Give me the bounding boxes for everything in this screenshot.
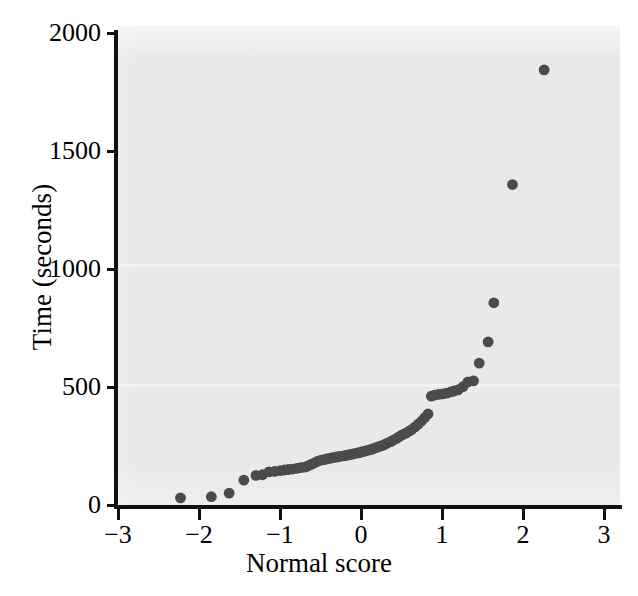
x-axis-title: Normal score	[0, 548, 638, 578]
data-point	[488, 297, 499, 308]
x-tick-minus2	[198, 508, 201, 520]
data-point	[468, 375, 479, 386]
x-tick-minus3	[117, 508, 120, 520]
y-tick-1500	[107, 150, 118, 153]
x-tick-label-minus3: −3	[78, 522, 158, 548]
y-tick-label-2000: 2000	[0, 20, 101, 46]
data-point	[423, 409, 434, 420]
x-tick-label-3: 3	[564, 522, 638, 548]
data-point	[507, 179, 518, 190]
data-point	[539, 64, 550, 75]
x-tick-minus1	[279, 508, 282, 520]
y-tick-500	[107, 386, 118, 389]
x-tick-0	[360, 508, 363, 520]
y-axis-title: Time (seconds)	[27, 117, 57, 417]
data-point	[224, 488, 235, 499]
x-tick-label-0: 0	[321, 522, 401, 548]
data-point	[175, 493, 186, 504]
x-axis-line	[114, 505, 622, 509]
x-tick-1	[441, 508, 444, 520]
x-tick-3	[603, 508, 606, 520]
normal-probability-plot-figure: 2000 1500 1000 500 0 −3 −2 −1 0 1 2 3 No…	[0, 0, 638, 596]
x-tick-2	[522, 508, 525, 520]
x-tick-label-minus1: −1	[240, 522, 320, 548]
data-point	[206, 491, 217, 502]
y-tick-label-0: 0	[0, 492, 101, 518]
y-tick-0	[107, 504, 118, 507]
plot-area	[118, 26, 620, 505]
x-tick-label-1: 1	[402, 522, 482, 548]
x-tick-label-minus2: −2	[159, 522, 239, 548]
data-points-layer	[118, 26, 620, 505]
data-point	[474, 358, 485, 369]
y-tick-2000	[107, 32, 118, 35]
y-tick-1000	[107, 268, 118, 271]
data-point	[238, 475, 249, 486]
data-point	[483, 336, 494, 347]
x-tick-label-2: 2	[483, 522, 563, 548]
